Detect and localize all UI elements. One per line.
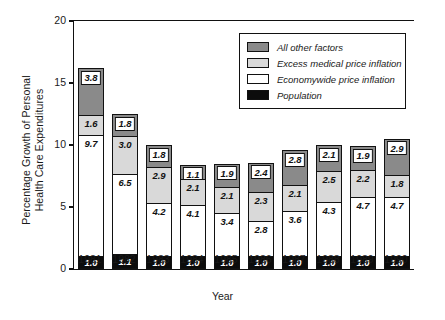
bar-segment-econ-1984[interactable]: 4.1 [180,205,206,257]
bar-value-label: 4.1 [184,207,202,219]
bar-segment-excess-1983[interactable]: 2.9 [146,167,172,204]
legend-swatch-other [247,42,269,53]
bar-value-label: 2.1 [319,148,339,162]
bar-1987[interactable]: 2.82.13.61.0 [282,151,308,269]
legend-item-excess[interactable]: Excess medical price inflation [247,55,399,71]
bar-value-label: 2.8 [252,223,270,235]
bar-value-label: 2.1 [184,181,202,193]
bar-value-label: 3.8 [81,71,101,85]
y-tick-mark [69,20,74,21]
bar-value-label: 1.8 [149,148,169,162]
bar-segment-econ-1987[interactable]: 3.6 [282,211,308,257]
y-tick-mark [69,144,74,145]
chart-figure: Percentage Growth of Personal Health Car… [0,0,445,320]
bar-segment-excess-1989[interactable]: 2.2 [350,170,376,198]
bar-value-label: 9.7 [82,138,100,150]
bar-segment-econ-1986[interactable]: 2.8 [248,221,274,257]
bar-segment-econ-1982[interactable]: 6.5 [112,174,138,256]
bar-segment-excess-1988[interactable]: 2.5 [316,171,342,203]
bar-segment-econ-1983[interactable]: 4.2 [146,203,172,256]
y-axis-title: Percentage Growth of Personal Health Car… [20,25,46,275]
bar-value-label: 4.3 [320,205,338,217]
bar-value-label: 1.9 [217,166,237,180]
y-tick-label: 5 [60,200,66,212]
legend-item-other[interactable]: All other factors [247,39,399,55]
bar-value-label: 4.7 [388,200,406,212]
legend-label: All other factors [277,42,343,53]
bar-value-label: 6.5 [116,176,134,188]
bar-segment-excess-1985[interactable]: 2.1 [214,187,240,214]
bar-value-label: 2.2 [354,172,372,184]
bar-segment-other-1987[interactable]: 2.8 [282,150,308,186]
bar-value-label: 4.2 [150,206,168,218]
bar-segment-excess-1986[interactable]: 2.3 [248,192,274,222]
bar-1983[interactable]: 1.82.94.21.0 [146,146,172,269]
bar-1982[interactable]: 1.83.06.51.1 [112,115,138,269]
bar-1989[interactable]: 1.92.24.71.0 [350,147,376,269]
bar-segment-econ-1981[interactable]: 9.7 [78,135,104,256]
bar-segment-other-1989[interactable]: 1.9 [350,146,376,171]
bar-1981[interactable]: 3.81.69.71.0 [78,69,104,269]
bar-value-label: 3.0 [116,139,134,151]
y-axis-title-line-2: Health Care Expenditures [33,25,46,275]
y-tick-label: 10 [54,138,66,150]
bar-segment-excess-1990[interactable]: 1.8 [384,175,410,198]
bar-value-label: 1.6 [82,118,100,130]
y-axis-title-line-1: Percentage Growth of Personal [20,25,33,275]
y-tick-mark [69,268,74,269]
bar-value-label: 1.8 [115,117,135,131]
chart-legend: All other factorsExcess medical price in… [239,33,406,109]
bar-value-label: 3.4 [218,216,236,228]
bar-segment-econ-1990[interactable]: 4.7 [384,197,410,256]
bar-segment-econ-1988[interactable]: 4.3 [316,202,342,256]
bar-segment-excess-1982[interactable]: 3.0 [112,136,138,174]
bar-segment-other-1990[interactable]: 2.9 [384,139,410,176]
bar-segment-other-1985[interactable]: 1.9 [214,164,240,189]
bar-segment-excess-1984[interactable]: 2.1 [180,179,206,206]
bar-1990[interactable]: 2.91.84.71.0 [384,140,410,269]
legend-label: Excess medical price inflation [277,58,402,69]
bar-value-label: 1.9 [353,149,373,163]
bar-value-label: 2.8 [285,153,305,167]
bar-segment-other-1981[interactable]: 3.8 [78,68,104,116]
bar-value-label: 2.5 [320,174,338,186]
legend-swatch-pop [247,90,269,101]
bar-value-label: 4.7 [354,200,372,212]
y-tick-label: 20 [54,14,66,26]
legend-label: Economywide price inflation [277,74,395,85]
bar-value-label: 2.9 [150,170,168,182]
y-tick-mark [69,82,74,83]
legend-swatch-excess [247,58,269,69]
bar-segment-other-1982[interactable]: 1.8 [112,114,138,137]
bar-value-label: 2.1 [286,187,304,199]
bar-segment-other-1984[interactable]: 1.1 [180,165,206,180]
legend-item-econ[interactable]: Economywide price inflation [247,71,399,87]
y-tick-label: 15 [54,76,66,88]
bar-value-label: 1.8 [388,177,406,189]
bar-segment-other-1988[interactable]: 2.1 [316,145,342,172]
bar-value-label: 2.9 [387,141,407,155]
bar-segment-excess-1981[interactable]: 1.6 [78,115,104,136]
legend-label: Population [277,90,322,101]
y-tick-label: 0 [60,262,66,274]
legend-item-pop[interactable]: Population [247,87,399,103]
bar-segment-other-1986[interactable]: 2.4 [248,163,274,194]
legend-swatch-econ [247,74,269,85]
bar-segment-econ-1989[interactable]: 4.7 [350,197,376,256]
bar-1988[interactable]: 2.12.54.31.0 [316,146,342,269]
bar-value-label: 2.3 [252,195,270,207]
bar-value-label: 3.6 [286,213,304,225]
bar-segment-other-1983[interactable]: 1.8 [146,145,172,168]
bar-segment-econ-1985[interactable]: 3.4 [214,213,240,256]
bar-segment-excess-1987[interactable]: 2.1 [282,185,308,212]
x-axis-title: Year [0,290,445,302]
x-tick-label-1990: 1990 [374,253,418,265]
bar-value-label: 2.1 [218,190,236,202]
bar-value-label: 2.4 [251,165,271,179]
y-tick-mark [69,206,74,207]
